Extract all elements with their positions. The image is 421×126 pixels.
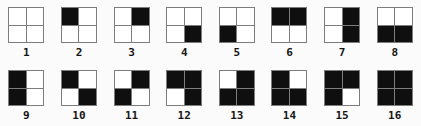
quadrant-top-left [220,71,237,88]
pattern-cell: 2 [53,0,106,63]
quadrant-bottom-right [27,26,44,43]
pattern-label: 16 [388,110,401,121]
pattern-label: 11 [125,110,138,121]
quadrant-bottom-right [395,89,412,106]
quadrant-bottom-left [220,26,237,43]
pattern-label: 2 [76,47,83,58]
pattern-label: 3 [128,47,135,58]
quadrant-bottom-right [132,26,149,43]
pattern-cell: 4 [158,0,211,63]
quadrant-bottom-left [115,26,132,43]
quadrant-bottom-right [132,89,149,106]
pattern-label: 14 [283,110,296,121]
quadrant-top-right [79,71,96,88]
quadrant-bottom-left [325,89,342,106]
quadrant-bottom-right [79,89,96,106]
quadrant-top-right [185,8,202,25]
pattern-square [324,7,360,43]
quadrant-bottom-left [9,89,26,106]
quadrant-bottom-left [62,26,79,43]
pattern-label: 9 [23,110,30,121]
pattern-square [114,70,150,106]
quadrant-bottom-left [378,89,395,106]
quadrant-top-right [79,8,96,25]
quadrant-top-right [132,71,149,88]
pattern-cell: 11 [105,63,158,126]
pattern-cell: 3 [105,0,158,63]
pattern-square [61,7,97,43]
quadrant-top-right [237,71,254,88]
pattern-cell: 10 [53,63,106,126]
pattern-square [377,70,413,106]
pattern-cell: 6 [263,0,316,63]
quadrant-top-right [237,8,254,25]
quadrant-bottom-left [325,26,342,43]
pattern-cell: 8 [368,0,421,63]
pattern-cell: 14 [263,63,316,126]
pattern-square [8,7,44,43]
pattern-grid: 1 2 3 4 [0,0,421,126]
quadrant-top-right [395,71,412,88]
quadrant-bottom-right [237,26,254,43]
quadrant-top-left [167,8,184,25]
quadrant-top-left [325,8,342,25]
quadrant-bottom-right [79,26,96,43]
pattern-cell: 13 [211,63,264,126]
quadrant-top-left [9,8,26,25]
quadrant-bottom-left [9,26,26,43]
quadrant-bottom-left [167,26,184,43]
quadrant-bottom-left [272,89,289,106]
pattern-square [219,7,255,43]
quadrant-top-left [272,8,289,25]
quadrant-bottom-left [220,89,237,106]
quadrant-top-right [132,8,149,25]
quadrant-bottom-right [27,89,44,106]
quadrant-top-left [9,71,26,88]
quadrant-top-left [325,71,342,88]
pattern-label: 13 [230,110,243,121]
quadrant-top-left [378,8,395,25]
pattern-label: 6 [286,47,293,58]
pattern-cell: 5 [211,0,264,63]
pattern-square [271,7,307,43]
pattern-label: 1 [23,47,30,58]
pattern-square [166,70,202,106]
quadrant-bottom-right [290,26,307,43]
pattern-square [324,70,360,106]
pattern-cell: 15 [316,63,369,126]
quadrant-top-right [290,71,307,88]
pattern-square [166,7,202,43]
pattern-label: 4 [181,47,188,58]
quadrant-top-left [272,71,289,88]
quadrant-top-left [115,71,132,88]
pattern-square [8,70,44,106]
quadrant-bottom-left [378,26,395,43]
quadrant-top-right [395,8,412,25]
quadrant-top-left [62,8,79,25]
pattern-cell: 9 [0,63,53,126]
pattern-square [114,7,150,43]
quadrant-bottom-right [185,89,202,106]
quadrant-top-left [167,71,184,88]
pattern-label: 10 [72,110,85,121]
quadrant-top-right [185,71,202,88]
pattern-cell: 1 [0,0,53,63]
pattern-label: 15 [335,110,348,121]
pattern-label: 8 [391,47,398,58]
pattern-cell: 7 [316,0,369,63]
pattern-cell: 12 [158,63,211,126]
quadrant-top-right [27,8,44,25]
quadrant-bottom-left [272,26,289,43]
quadrant-top-right [343,71,360,88]
pattern-square [377,7,413,43]
quadrant-bottom-right [290,89,307,106]
quadrant-bottom-right [185,26,202,43]
pattern-square [271,70,307,106]
quadrant-bottom-right [343,89,360,106]
quadrant-top-left [115,8,132,25]
quadrant-top-left [62,71,79,88]
quadrant-top-left [378,71,395,88]
quadrant-bottom-left [115,89,132,106]
pattern-label: 7 [339,47,346,58]
pattern-label: 12 [178,110,191,121]
